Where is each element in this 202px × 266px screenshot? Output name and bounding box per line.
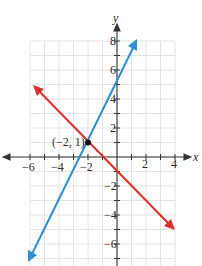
grid-lines	[30, 41, 175, 266]
y-axis-label: y	[112, 11, 119, 25]
x-tick-label: 4	[171, 157, 177, 171]
x-tick-label: 2	[142, 157, 148, 171]
x-tick-label: −4	[51, 160, 64, 174]
x-axis-label: x	[192, 150, 199, 164]
y-tick-label: −2	[104, 179, 117, 193]
coordinate-graph: y x −6 −4 −2 2 4 8 6 4 2 −2 −4 −6 (−2, 1…	[0, 0, 202, 266]
y-axis-arrow-up-icon	[114, 24, 120, 31]
x-axis-arrow-right-icon	[184, 154, 191, 160]
y-tick-label: −6	[104, 237, 117, 251]
y-tick-label: 2	[110, 121, 116, 135]
intersection-label: (−2, 1)	[52, 135, 85, 149]
y-tick-label: 6	[110, 63, 116, 77]
x-axis-arrow-left-icon	[3, 154, 10, 160]
x-tick-label: −2	[80, 160, 93, 174]
intersection-point	[85, 140, 91, 146]
y-tick-label: −4	[104, 208, 117, 222]
x-tick-label: −6	[22, 160, 35, 174]
y-tick-label: 8	[110, 34, 116, 48]
